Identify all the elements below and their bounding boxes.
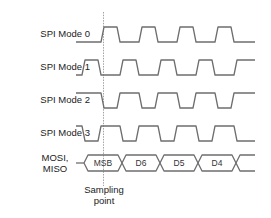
waveform-spi-mode-3: [76, 126, 255, 141]
bus-text-d6: D6: [136, 158, 147, 168]
waveform-spi-mode-2: [76, 93, 255, 108]
bus-cell-next: [236, 155, 255, 171]
bus-text-d4: D4: [212, 158, 223, 168]
waveform-spi-mode-1: [76, 60, 255, 75]
bus-text-d5: D5: [174, 158, 185, 168]
timing-diagram: MSB D6 D5 D4: [0, 0, 271, 218]
bus-text-msb: MSB: [94, 158, 113, 168]
data-bus: MSB D6 D5 D4: [76, 155, 255, 171]
waveform-spi-mode-0: [76, 27, 255, 42]
